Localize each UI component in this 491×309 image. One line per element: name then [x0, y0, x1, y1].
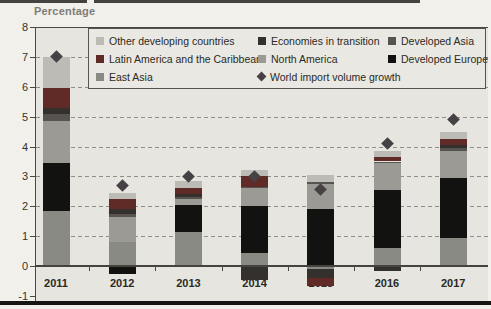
legend-swatch-icon: [96, 37, 104, 45]
gridline-dashed: [36, 117, 488, 118]
bar-segment-latin-america-and-the-caribbean: [175, 188, 202, 194]
bar-segment-developed-europe: [307, 209, 334, 266]
bar-segment-economies-in-transition: [109, 209, 136, 213]
bar-segment-east-asia: [374, 248, 401, 266]
legend-label: World import volume growth: [270, 71, 401, 83]
legend-swatch-icon: [258, 37, 266, 45]
y-axis-tick-label: 4: [0, 140, 28, 154]
bar-segment-developed-europe: [175, 205, 202, 232]
bar-segment-north-america: [241, 188, 268, 206]
bar-segment-east-asia: [43, 211, 70, 266]
legend-item-latin-america-and-the-caribbean: Latin America and the Caribbean: [96, 50, 258, 67]
bar-segment-developed-asia: [175, 197, 202, 198]
bar-segment-developed-asia: [241, 187, 268, 188]
x-axis-year-label: 2016: [362, 277, 412, 289]
bar-segment-other-developing-countries: [440, 132, 467, 139]
bar-segment-developed-europe: [374, 190, 401, 248]
x-axis-tick: [354, 266, 355, 271]
legend-swatch-icon: [388, 55, 396, 63]
bar-segment-latin-america-and-the-caribbean: [109, 199, 136, 209]
legend-item-east-asia: East Asia: [96, 68, 258, 85]
bar-segment-north-america: [175, 199, 202, 205]
bar-segment-developed-europe: [43, 163, 70, 211]
y-axis-tick-label: 2: [0, 199, 28, 213]
legend-label: Latin America and the Caribbean: [109, 53, 262, 65]
x-axis-tick: [288, 266, 289, 271]
legend-item-north-america: North America: [258, 50, 388, 67]
legend-label: North America: [271, 53, 338, 65]
bar-segment-economies-in-transition: [241, 266, 268, 279]
bar-segment-north-america: [440, 151, 467, 178]
legend-item-economies-in-transition: Economies in transition: [258, 32, 388, 49]
x-axis-tick: [420, 266, 421, 271]
x-axis-year-label: 2013: [163, 277, 213, 289]
bar-segment-developed-europe: [440, 178, 467, 238]
bar-segment-north-america: [374, 163, 401, 190]
bar-segment-other-developing-countries: [307, 175, 334, 182]
bar-segment-east-asia: [175, 232, 202, 266]
y-axis-line: [35, 27, 36, 301]
bar-segment-other-developing-countries: [109, 193, 136, 199]
bar-segment-east-asia: [440, 238, 467, 266]
x-axis-year-label: 2017: [428, 277, 478, 289]
bar-segment-latin-america-and-the-caribbean: [374, 157, 401, 161]
x-axis-tick: [222, 266, 223, 271]
bar-segment-developed-asia: [374, 162, 401, 163]
legend-label: East Asia: [109, 71, 153, 83]
bar-segment-north-america: [109, 217, 136, 242]
legend-empty-cell: [388, 68, 488, 85]
bar-segment-economies-in-transition: [307, 269, 334, 278]
legend-label: Developed Europe: [401, 53, 488, 65]
bar-segment-latin-america-and-the-caribbean: [307, 278, 334, 285]
legend-item-other-developing-countries: Other developing countries: [96, 32, 258, 49]
bar-segment-economies-in-transition: [43, 108, 70, 114]
gridline-dashed: [36, 147, 488, 148]
legend: Other developing countries Economies in …: [88, 28, 486, 89]
y-axis-tick-label: 5: [0, 110, 28, 124]
y-axis-tick-label: 0: [0, 259, 28, 273]
legend-label: Other developing countries: [109, 35, 235, 47]
bar-segment-east-asia: [109, 242, 136, 266]
legend-swatch-icon: [96, 55, 104, 63]
bar-segment-latin-america-and-the-caribbean: [43, 88, 70, 107]
bar-segment-north-america: [43, 121, 70, 163]
chart-figure: Percentage Other developing countries Ec…: [0, 0, 491, 309]
bar-segment-other-developing-countries: [374, 151, 401, 157]
y-axis-tick-label: 3: [0, 169, 28, 183]
legend-item-developed-asia: Developed Asia: [388, 32, 488, 49]
x-axis-tick: [155, 266, 156, 271]
bar-segment-latin-america-and-the-caribbean: [440, 139, 467, 145]
bar-segment-economies-in-transition: [175, 194, 202, 197]
legend-swatch-icon: [388, 37, 396, 45]
legend-label: Economies in transition: [271, 35, 380, 47]
y-axis-tick-label: 1: [0, 229, 28, 243]
legend-swatch-icon: [96, 73, 104, 81]
y-axis-tick-label: 6: [0, 80, 28, 94]
legend-swatch-icon: [258, 55, 266, 63]
bar-segment-developed-asia: [43, 114, 70, 121]
bar-segment-economies-in-transition: [440, 145, 467, 148]
bar-segment-developed-europe: [241, 206, 268, 252]
x-axis-year-label: 2011: [31, 277, 81, 289]
bar-segment-developed-asia: [109, 214, 136, 217]
y-axis-title: Percentage: [34, 5, 95, 17]
x-axis-tick: [89, 266, 90, 271]
bar-segment-developed-europe: [109, 266, 136, 273]
cropped-title-text-strip: [0, 0, 420, 3]
figure-bottom-rule: [0, 301, 491, 305]
legend-item-developed-europe: Developed Europe: [388, 50, 488, 67]
legend-item-world-import-volume-growth: World import volume growth: [258, 68, 388, 85]
legend-diamond-marker-icon: [257, 72, 267, 82]
bar-segment-developed-asia: [440, 148, 467, 151]
y-axis-tick-label: 8: [0, 20, 28, 34]
x-axis-year-label: 2012: [97, 277, 147, 289]
legend-label: Developed Asia: [401, 35, 474, 47]
y-axis-tick-label: 7: [0, 50, 28, 64]
